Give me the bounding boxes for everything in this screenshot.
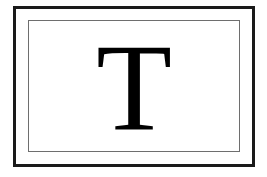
text-letter-icon: T (28, 20, 240, 152)
